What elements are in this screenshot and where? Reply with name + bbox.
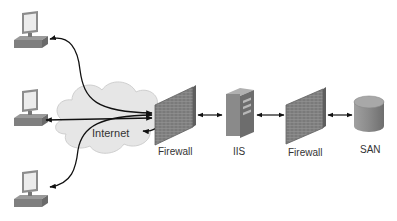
desktop-computer-icon bbox=[14, 89, 48, 126]
network-diagram bbox=[0, 0, 397, 221]
firewall-outer bbox=[155, 85, 196, 145]
desktop-computer-icon bbox=[14, 11, 48, 48]
san-label: SAN bbox=[360, 144, 381, 155]
desktop-computer-icon bbox=[14, 170, 48, 207]
san-storage bbox=[354, 96, 384, 132]
brick-wall-icon bbox=[286, 87, 326, 144]
storage-cylinder-icon bbox=[354, 96, 384, 132]
client-computer-middle bbox=[14, 89, 48, 126]
firewall-inner-label: Firewall bbox=[288, 147, 322, 158]
server-tower-icon bbox=[226, 88, 254, 138]
internet-label: Internet bbox=[92, 127, 129, 139]
brick-wall-icon bbox=[155, 85, 196, 145]
iis-label: IIS bbox=[233, 146, 245, 157]
iis-server bbox=[226, 88, 254, 138]
firewall-inner bbox=[286, 87, 326, 144]
client-computer-top bbox=[14, 11, 48, 48]
client-computer-bottom bbox=[14, 170, 48, 207]
firewall-outer-label: Firewall bbox=[158, 146, 192, 157]
